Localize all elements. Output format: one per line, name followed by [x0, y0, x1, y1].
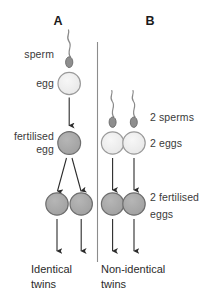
- arrow-a-split-right: [72, 158, 81, 191]
- label-fertilised-egg: egg: [0, 143, 54, 156]
- label-sperm: sperm: [0, 48, 54, 61]
- twins-formation-diagram: A B: [0, 0, 208, 296]
- label-egg: egg: [0, 77, 54, 90]
- identical-cell-right: [70, 193, 92, 215]
- fertilised-egg-b-1: [101, 193, 123, 215]
- fertilised-egg-b-2: [123, 193, 145, 215]
- label-fertilised: fertilised: [0, 130, 54, 143]
- sperm-b-2: [130, 91, 137, 128]
- label-two-sperms: 2 sperms: [150, 111, 194, 124]
- label-two-fertilised: 2 fertilised: [150, 191, 199, 204]
- egg-a: [58, 72, 80, 94]
- outcome-non-identical-line2: twins: [101, 277, 126, 293]
- egg-b-2: [123, 132, 145, 154]
- outcome-identical-line1: Identical: [31, 262, 72, 278]
- outcome-non-identical-line1: Non-identical: [101, 262, 165, 278]
- outcome-identical-line2: twins: [31, 277, 56, 293]
- sperm-b-1: [109, 91, 116, 128]
- arrow-a-split-left: [58, 158, 67, 191]
- label-two-eggs: 2 eggs: [150, 137, 182, 150]
- label-two-fertilised-eggs: eggs: [150, 208, 173, 221]
- sperm-a: [66, 30, 73, 68]
- identical-cell-left: [46, 193, 68, 215]
- egg-b-1: [101, 132, 123, 154]
- fertilised-egg-a: [58, 132, 81, 155]
